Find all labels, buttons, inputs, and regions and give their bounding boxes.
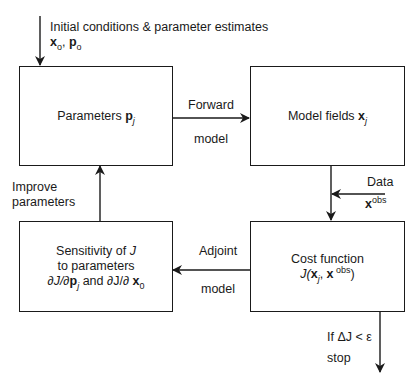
model-fields-box: Model fields xj xyxy=(250,66,405,166)
stop-label: stop xyxy=(327,351,351,366)
model-fields-label: Model fields xj xyxy=(288,109,367,124)
sensitivity-box: Sensitivity of J to parameters ∂J/∂pj an… xyxy=(19,221,173,312)
forward-model-label: model xyxy=(194,132,228,147)
forward-label: Forward xyxy=(188,98,234,113)
sensitivity-label: Sensitivity of J to parameters ∂J/∂pj an… xyxy=(47,244,144,289)
adjoint-model-label: model xyxy=(201,282,235,297)
data-label: Data xyxy=(367,175,393,190)
adjoint-label: Adjoint xyxy=(199,244,237,259)
cost-function-label: Cost function J(xj, x obs) xyxy=(291,252,364,282)
cost-function-box: Cost function J(xj, x obs) xyxy=(250,221,405,312)
observations-label: xobs xyxy=(365,197,386,212)
input-label: Initial conditions & parameter estimates… xyxy=(50,20,268,50)
parameters-label: Parameters pj xyxy=(57,109,135,124)
stop-condition-label: If ΔJ < ε xyxy=(327,330,372,345)
improve-parameters-label: Improve parameters xyxy=(12,180,75,210)
parameters-box: Parameters pj xyxy=(19,66,173,166)
